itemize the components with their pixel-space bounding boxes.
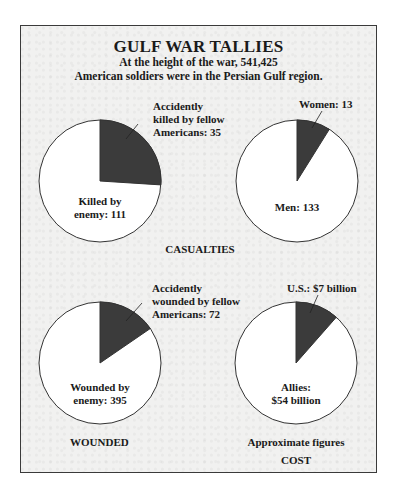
label-line: Allies: xyxy=(246,381,346,394)
us-cost-label: U.S.: $7 billion xyxy=(287,282,357,295)
label-line: Americans: 72 xyxy=(152,308,240,321)
gender-pie xyxy=(236,111,358,242)
label-line: Killed by xyxy=(55,195,145,208)
label-line: Accidently xyxy=(153,100,225,113)
allies-cost-label: Allies: $54 billion xyxy=(246,381,346,407)
killed-pie-dark-slice xyxy=(100,120,161,185)
label-line: wounded by fellow xyxy=(152,295,240,308)
label-line: Wounded by xyxy=(50,381,150,394)
killed-enemy-label: Killed by enemy: 111 xyxy=(55,195,145,221)
men-label: Men: 133 xyxy=(252,201,342,214)
label-line: Accidently xyxy=(152,282,240,295)
label-line: $54 billion xyxy=(246,394,346,407)
label-line: enemy: 395 xyxy=(50,394,150,407)
wounded-accidental-label: Accidently wounded by fellow Americans: … xyxy=(152,282,240,321)
approximate-note: Approximate figures xyxy=(236,436,356,449)
wounded-section-label: WOUNDED xyxy=(70,436,129,449)
label-line: enemy: 111 xyxy=(55,208,145,221)
casualties-section-label: CASUALTIES xyxy=(150,243,250,256)
killed-accidental-label: Accidently killed by fellow Americans: 3… xyxy=(153,100,225,139)
killed-pie xyxy=(39,120,161,242)
label-line: Americans: 35 xyxy=(153,126,225,139)
women-label: Women: 13 xyxy=(299,98,352,111)
wounded-enemy-label: Wounded by enemy: 395 xyxy=(50,381,150,407)
label-line: killed by fellow xyxy=(153,113,225,126)
cost-section-label: COST xyxy=(266,454,326,467)
